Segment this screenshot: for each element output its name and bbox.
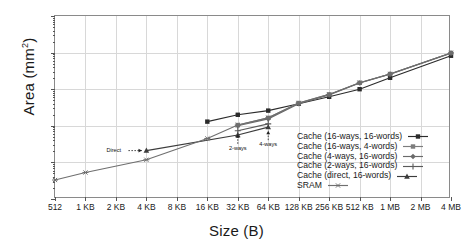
y-tick-mark-minor bbox=[53, 100, 55, 101]
y-tick-mark-minor bbox=[53, 108, 55, 109]
legend-label: SRAM bbox=[297, 181, 322, 191]
y-tick-mark-minor bbox=[53, 91, 55, 92]
data-point bbox=[416, 135, 420, 139]
y-tick-mark-minor bbox=[53, 93, 55, 94]
x-tick-mark bbox=[207, 197, 208, 201]
annotation-arrowhead bbox=[138, 149, 141, 153]
y-tick-mark-minor bbox=[53, 131, 55, 132]
y-tick-mark-minor bbox=[53, 27, 55, 28]
y-tick-mark-minor bbox=[53, 56, 55, 57]
legend-marker bbox=[402, 142, 424, 151]
y-tick-mark-minor bbox=[53, 22, 55, 23]
y-tick-mark-minor bbox=[53, 177, 55, 178]
data-point bbox=[143, 158, 149, 162]
x-tick-mark bbox=[299, 197, 300, 201]
x-tick-label: 128 KB bbox=[285, 202, 313, 212]
y-tick-mark-minor bbox=[53, 78, 55, 79]
legend-marker bbox=[402, 152, 424, 161]
data-point bbox=[357, 87, 361, 91]
x-tick-label: 1 MB bbox=[380, 202, 400, 212]
x-tick-mark bbox=[116, 197, 117, 201]
x-tick-label: 16 KB bbox=[196, 202, 219, 212]
y-tick-mark-minor bbox=[53, 115, 55, 116]
x-tick-label: 4 KB bbox=[137, 202, 155, 212]
x-tick-mark bbox=[55, 197, 56, 201]
x-tick-label: 1 KB bbox=[76, 202, 94, 212]
y-axis-title-tail: ) bbox=[20, 38, 37, 43]
y-tick-mark-minor bbox=[53, 20, 55, 21]
y-axis-title: Area (mm2) bbox=[20, 0, 37, 157]
y-tick-mark-minor bbox=[53, 54, 55, 55]
x-tick-label: 8 KB bbox=[168, 202, 186, 212]
y-tick-mark-minor bbox=[53, 173, 55, 174]
data-point bbox=[82, 170, 88, 174]
x-tick-label: 512 KB bbox=[346, 202, 374, 212]
y-axis-title-exponent: 2 bbox=[20, 43, 30, 48]
y-tick-mark-minor bbox=[53, 31, 55, 32]
data-point bbox=[410, 163, 416, 169]
chart-legend: Cache (16-ways, 16-words)Cache (16-ways,… bbox=[297, 132, 429, 191]
x-tick-mark bbox=[238, 197, 239, 201]
legend-marker bbox=[407, 132, 429, 141]
y-tick-mark-minor bbox=[53, 95, 55, 96]
y-tick-mark-minor bbox=[53, 58, 55, 59]
y-tick-mark-minor bbox=[53, 168, 55, 169]
chart-container: Area (mm2) Size (B) 0.0010.010.1110100 5… bbox=[0, 0, 473, 247]
annotation-label: 2-ways bbox=[229, 145, 247, 151]
y-tick-mark-minor bbox=[53, 129, 55, 130]
y-tick-mark-minor bbox=[53, 72, 55, 73]
x-tick-mark bbox=[146, 197, 147, 201]
x-axis-title: Size (B) bbox=[0, 222, 473, 239]
y-axis-title-text: Area (mm bbox=[20, 48, 37, 115]
x-tick-mark bbox=[268, 197, 269, 201]
x-tick-mark bbox=[329, 197, 330, 201]
y-tick-mark-minor bbox=[53, 35, 55, 36]
y-tick-mark-minor bbox=[53, 134, 55, 135]
x-tick-mark bbox=[421, 197, 422, 201]
annotation-label: Direct bbox=[106, 147, 121, 153]
y-tick-mark-minor bbox=[53, 137, 55, 138]
y-tick-mark-minor bbox=[53, 182, 55, 183]
x-tick-label: 512 bbox=[48, 202, 62, 212]
data-point bbox=[335, 184, 341, 188]
data-point bbox=[205, 119, 209, 123]
x-tick-label: 32 KB bbox=[226, 202, 249, 212]
x-tick-mark bbox=[360, 197, 361, 201]
legend-marker bbox=[396, 172, 418, 181]
annotation-label: 4-ways bbox=[259, 141, 277, 147]
x-tick-label: 4 MB bbox=[441, 202, 461, 212]
x-tick-label: 64 KB bbox=[257, 202, 280, 212]
data-point bbox=[266, 108, 270, 112]
y-tick-mark-minor bbox=[53, 145, 55, 146]
annotation-arrowhead bbox=[266, 131, 270, 134]
y-tick-mark-minor bbox=[53, 104, 55, 105]
x-tick-mark bbox=[177, 197, 178, 201]
y-tick-mark-minor bbox=[53, 127, 55, 128]
x-tick-mark bbox=[451, 197, 452, 201]
y-tick-mark-minor bbox=[53, 61, 55, 62]
x-tick-label: 2 KB bbox=[107, 202, 125, 212]
y-tick-mark-minor bbox=[53, 67, 55, 68]
x-tick-label: 256 KB bbox=[315, 202, 343, 212]
y-tick-mark-minor bbox=[53, 164, 55, 165]
y-tick-mark-minor bbox=[53, 166, 55, 167]
y-tick-mark bbox=[51, 199, 55, 200]
legend-marker bbox=[402, 162, 424, 171]
data-point bbox=[236, 113, 240, 117]
x-tick-mark bbox=[390, 197, 391, 201]
data-point bbox=[410, 154, 416, 160]
legend-marker bbox=[327, 181, 349, 190]
y-tick-mark-minor bbox=[53, 188, 55, 189]
y-tick-mark-minor bbox=[53, 151, 55, 152]
x-tick-mark bbox=[85, 197, 86, 201]
y-tick-mark-minor bbox=[53, 97, 55, 98]
data-point bbox=[265, 124, 271, 129]
data-point bbox=[411, 144, 415, 148]
x-tick-label: 2 MB bbox=[411, 202, 431, 212]
y-tick-mark-minor bbox=[53, 140, 55, 141]
y-tick-mark-minor bbox=[53, 64, 55, 65]
y-tick-mark-minor bbox=[53, 42, 55, 43]
legend-item: SRAM bbox=[297, 181, 429, 191]
y-tick-mark-minor bbox=[53, 18, 55, 19]
y-tick-mark-minor bbox=[53, 171, 55, 172]
